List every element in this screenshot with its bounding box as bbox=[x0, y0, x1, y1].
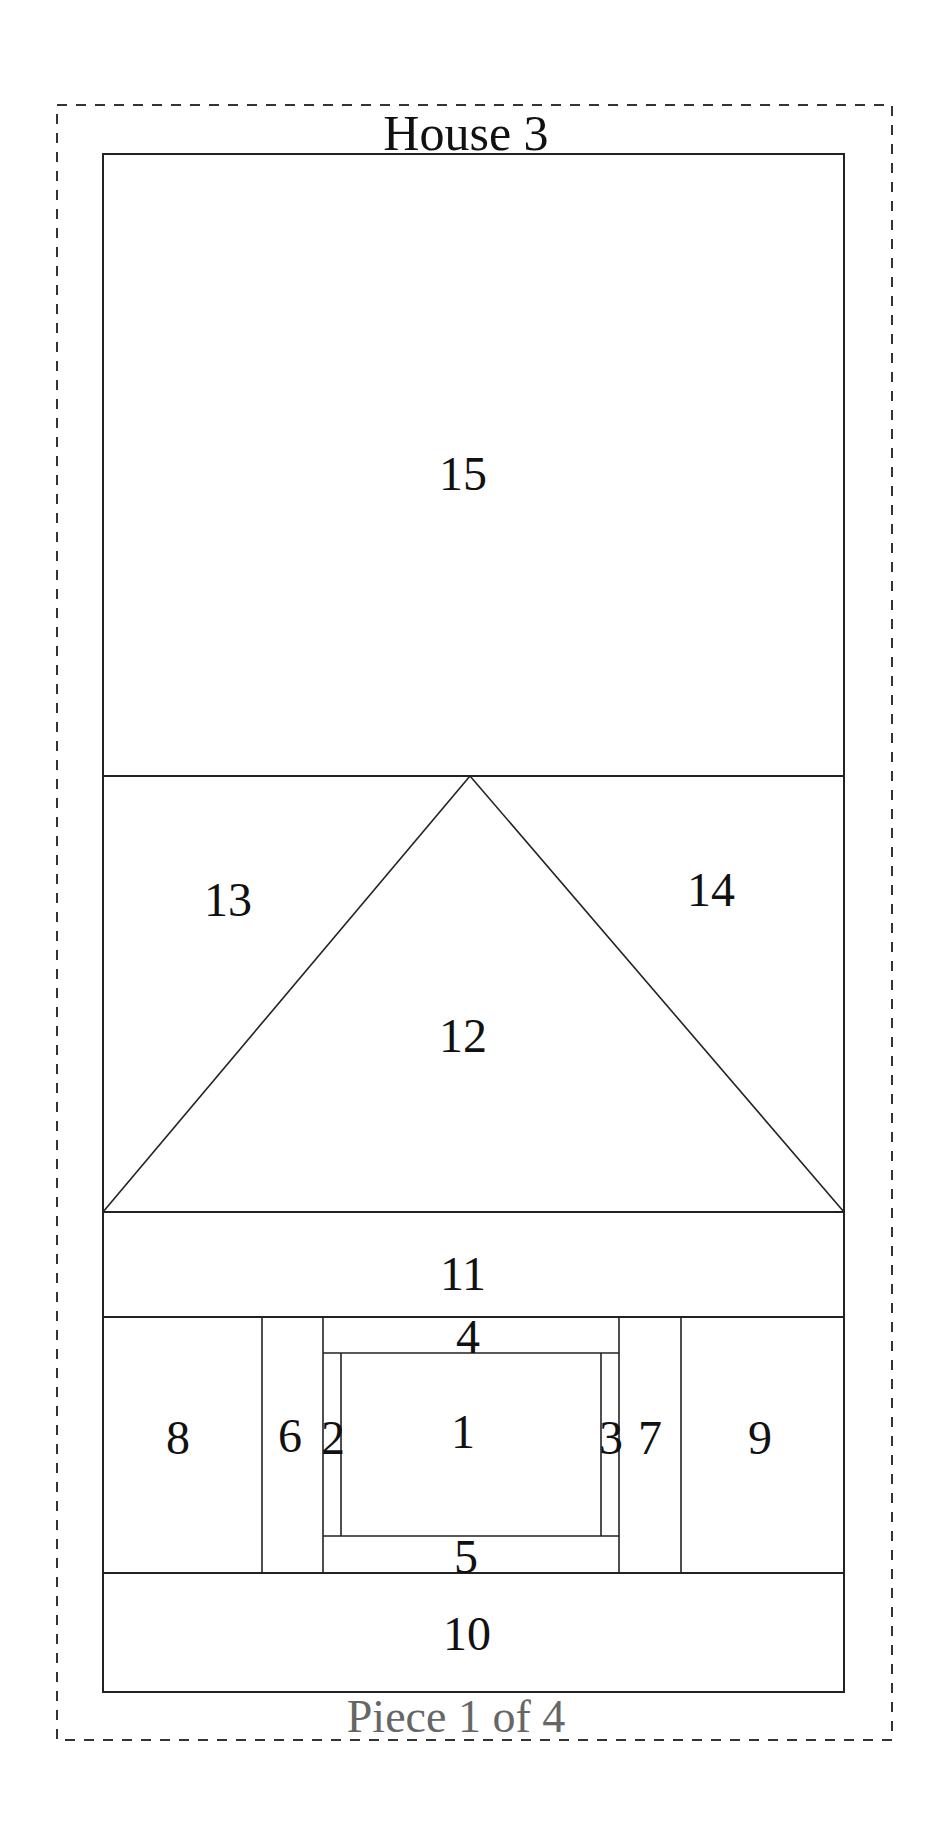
piece-label-15: 15 bbox=[439, 447, 487, 500]
piece-label-8: 8 bbox=[166, 1411, 190, 1464]
piece-label-4: 4 bbox=[456, 1310, 480, 1363]
piece-counter: Piece 1 of 4 bbox=[347, 1691, 565, 1742]
piece-label-9: 9 bbox=[748, 1411, 772, 1464]
piece-label-1: 1 bbox=[451, 1405, 475, 1458]
piece-label-2: 2 bbox=[321, 1411, 345, 1464]
piece-label-10: 10 bbox=[443, 1607, 491, 1660]
seam-allowance-boundary bbox=[57, 105, 892, 1740]
piece-label-7: 7 bbox=[638, 1411, 662, 1464]
piece-label-11: 11 bbox=[440, 1247, 486, 1300]
piece-label-6: 6 bbox=[278, 1409, 302, 1462]
foundation-pattern: House 3 Piece 1 of 4 15 13 14 12 11 4 8 … bbox=[0, 0, 937, 1829]
pattern-title: House 3 bbox=[383, 105, 548, 161]
piece-label-3: 3 bbox=[599, 1411, 623, 1464]
roof-left-edge bbox=[103, 776, 470, 1212]
roof-right-edge bbox=[470, 776, 844, 1212]
piece-label-5: 5 bbox=[454, 1530, 478, 1583]
piece-label-12: 12 bbox=[439, 1009, 487, 1062]
piece-label-14: 14 bbox=[687, 863, 735, 916]
piece-label-13: 13 bbox=[204, 873, 252, 926]
